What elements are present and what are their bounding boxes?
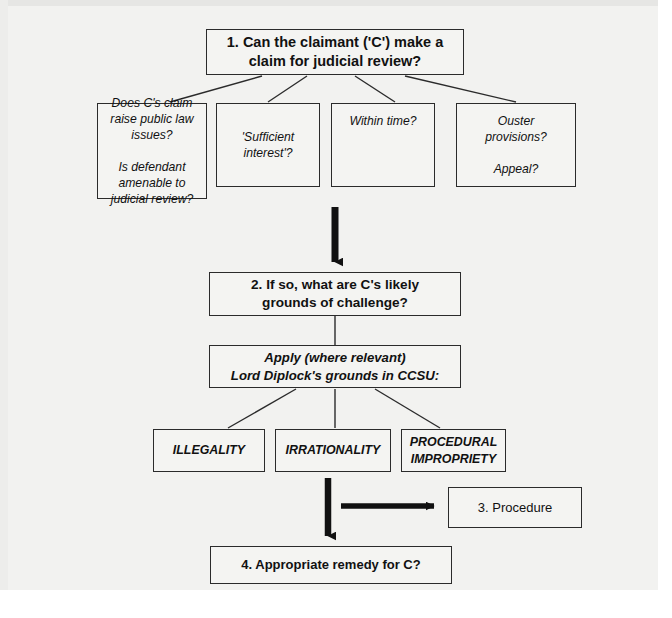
- flowchart-page: 1. Can the claimant ('C') make a claim f…: [0, 0, 672, 618]
- node-apply-ccsu[interactable]: Apply (where relevant) Lord Diplock's gr…: [209, 345, 461, 388]
- apply-to-procedural-line: [375, 389, 440, 428]
- node-procedural-label: PROCEDURAL IMPROPRIETY: [410, 434, 497, 467]
- node-q4-label: 4. Appropriate remedy for C?: [241, 556, 420, 573]
- node-apply-label: Apply (where relevant) Lord Diplock's gr…: [231, 349, 439, 384]
- node-within-time-label: Within time?: [350, 113, 417, 129]
- node-public-law-label: Does C's claim raise public law issues? …: [110, 95, 193, 208]
- q1-to-sufficient-interest-line: [268, 76, 307, 102]
- node-illegality[interactable]: ILLEGALITY: [153, 429, 265, 472]
- node-procedural-impropriety[interactable]: PROCEDURAL IMPROPRIETY: [401, 429, 506, 472]
- node-irrationality-label: IRRATIONALITY: [286, 442, 381, 458]
- node-q4-remedy[interactable]: 4. Appropriate remedy for C?: [210, 546, 452, 584]
- node-within-time[interactable]: Within time?: [331, 103, 435, 187]
- node-q1-claim[interactable]: 1. Can the claimant ('C') make a claim f…: [206, 29, 464, 75]
- node-q1-label: 1. Can the claimant ('C') make a claim f…: [227, 33, 443, 71]
- node-illegality-label: ILLEGALITY: [173, 442, 245, 458]
- node-ouster-label: Ouster provisions? Appeal?: [485, 113, 547, 177]
- node-q2-label: 2. If so, what are C's likely grounds of…: [251, 276, 419, 312]
- node-q2-grounds[interactable]: 2. If so, what are C's likely grounds of…: [209, 272, 461, 316]
- flowchart-canvas: 1. Can the claimant ('C') make a claim f…: [0, 0, 672, 618]
- node-q3-label: 3. Procedure: [478, 499, 552, 516]
- apply-fan-connectors: [228, 389, 440, 428]
- node-irrationality[interactable]: IRRATIONALITY: [275, 429, 391, 472]
- apply-to-illegality-line: [228, 389, 296, 428]
- node-sufficient-interest[interactable]: 'Sufficient interest'?: [216, 103, 320, 187]
- q1-to-ouster-line: [405, 76, 516, 102]
- node-ouster-provisions[interactable]: Ouster provisions? Appeal?: [456, 103, 576, 187]
- node-sufficient-interest-label: 'Sufficient interest'?: [242, 129, 294, 161]
- node-q3-procedure[interactable]: 3. Procedure: [448, 487, 582, 528]
- q1-fan-connectors: [170, 76, 516, 102]
- node-public-law[interactable]: Does C's claim raise public law issues? …: [97, 103, 207, 199]
- q1-to-within-time-line: [355, 76, 395, 102]
